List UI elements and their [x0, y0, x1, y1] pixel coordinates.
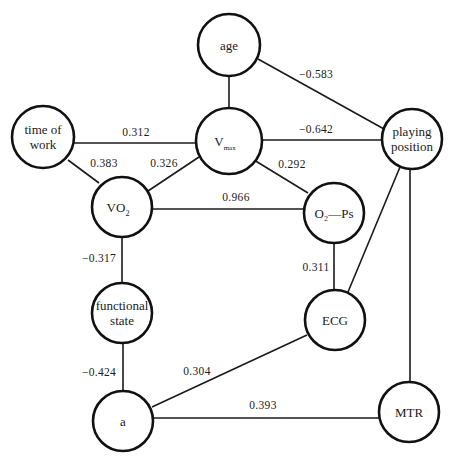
- edge-label-time_of_work-vo2: 0.383: [90, 157, 117, 169]
- edge-label-age-playing_position: −0.583: [299, 68, 333, 80]
- node-label: MTR: [395, 405, 424, 420]
- edge-label-vo2-o2_ps: 0.966: [222, 191, 249, 203]
- node-mtr: MTR: [379, 382, 439, 442]
- diagram-canvas: −0.5830.312−0.6420.3830.3260.2920.966−0.…: [0, 0, 456, 463]
- node-time-of-work: time ofwork: [12, 106, 74, 168]
- edge-label-functional_state-a: −0.424: [82, 366, 116, 378]
- node-label: state: [110, 313, 134, 328]
- node-vmax: Vmax: [196, 108, 262, 174]
- node-vo2: VO2: [92, 177, 152, 237]
- node-circle: [196, 108, 262, 174]
- edge-label-o2_ps-ecg: 0.311: [303, 261, 330, 273]
- node-label: age: [220, 38, 238, 53]
- correlation-diagram: −0.5830.312−0.6420.3830.3260.2920.966−0.…: [0, 0, 456, 463]
- node-label: playing: [393, 124, 432, 139]
- node-label: O₂—Ps: [314, 206, 353, 221]
- edge-label-vo2-functional_state: −0.317: [82, 252, 116, 264]
- node-o2-ps: O₂—Ps: [304, 183, 364, 243]
- node-label: work: [30, 137, 57, 152]
- edge-label-a-mtr: 0.393: [249, 399, 276, 411]
- node-label: a: [120, 414, 126, 429]
- node-functional-state: functionalstate: [92, 283, 152, 343]
- node-label-subscript: max: [224, 144, 237, 152]
- node-age: age: [198, 14, 260, 76]
- edge-label-vmax-o2_ps: 0.292: [278, 158, 305, 170]
- edge-a-ecg: [152, 335, 307, 407]
- node-label: position: [391, 139, 433, 154]
- edge-label-vmax-playing_position: −0.642: [299, 123, 333, 135]
- node-a: a: [93, 391, 153, 451]
- edge-label-vo2-vmax: 0.326: [150, 157, 177, 169]
- node-ecg: ECG: [305, 290, 365, 350]
- node-playing-position: playingposition: [382, 109, 442, 169]
- node-label: time of: [24, 122, 62, 137]
- nodes-layer: ageVmaxtime ofworkVO2O₂—Psplayingpositio…: [12, 14, 442, 451]
- node-label: ECG: [322, 313, 348, 328]
- node-label: functional: [96, 298, 149, 313]
- edge-label-a-ecg: 0.304: [183, 365, 210, 377]
- edge-label-time_of_work-vmax: 0.312: [122, 126, 149, 138]
- node-label-subscript: 2: [125, 209, 129, 218]
